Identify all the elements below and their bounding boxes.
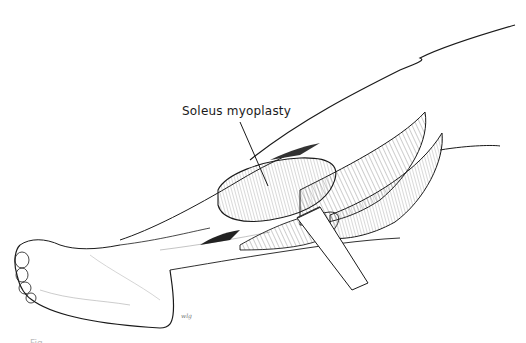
soleus-myoplasty-label: Soleus myoplasty [182,104,291,118]
figure-caption: Fig. [30,337,510,343]
thigh-outline [250,25,515,160]
anatomical-illustration [0,0,526,343]
leg-drawing [0,0,526,343]
artist-signature: wlg [181,312,192,319]
foot-outline [15,245,174,328]
